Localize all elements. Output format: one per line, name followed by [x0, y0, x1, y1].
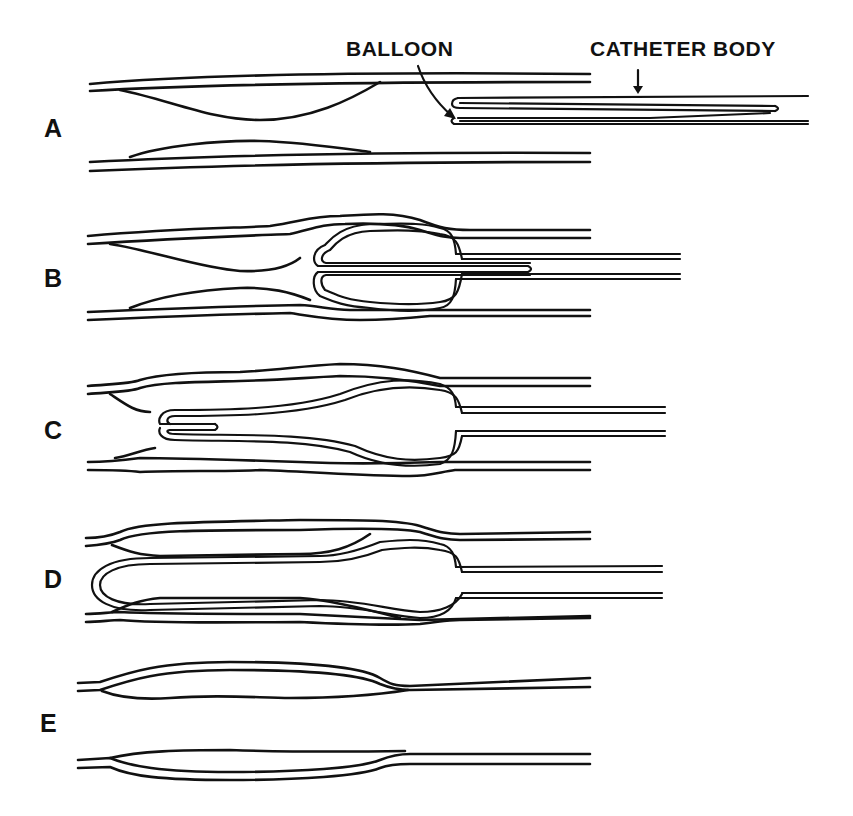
- panel-c-drawing: [88, 364, 665, 476]
- balloon-catheter-diagram: A B C D E BALLOON CATHETER BODY: [0, 0, 853, 816]
- panel-b-drawing: [88, 214, 680, 320]
- panel-e-drawing: [78, 662, 590, 780]
- panel-a-drawing: [90, 66, 808, 171]
- panel-d-drawing: [86, 520, 662, 625]
